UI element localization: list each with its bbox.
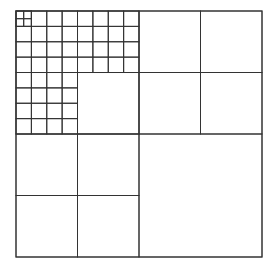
fine-cell: [62, 26, 77, 41]
fine-cell: [78, 57, 93, 72]
fine-cell: [16, 57, 31, 72]
fine-cell: [47, 42, 62, 57]
fine-cell: [78, 11, 93, 26]
corner-sub-cell: [16, 19, 24, 27]
corner-sub-cell: [24, 19, 32, 27]
fine-cell: [93, 26, 108, 41]
fine-cell: [93, 57, 108, 72]
fine-cell: [93, 11, 108, 26]
quad-cell: [78, 134, 140, 196]
fine-cell: [16, 88, 31, 103]
quad-cell: [201, 73, 263, 135]
quad-cell: [78, 73, 140, 135]
quad-cell: [139, 134, 262, 257]
fine-cell: [108, 42, 123, 57]
fine-cell: [78, 26, 93, 41]
fine-cell: [31, 42, 46, 57]
fine-cell: [31, 11, 46, 26]
fine-cell: [62, 103, 77, 118]
fine-cell: [16, 26, 31, 41]
fine-cell: [108, 26, 123, 41]
fine-cell: [47, 103, 62, 118]
fine-cell: [16, 103, 31, 118]
fine-cell: [16, 73, 31, 88]
fine-cell: [124, 11, 139, 26]
fine-cell: [16, 119, 31, 134]
fine-cell: [62, 42, 77, 57]
quad-cell: [201, 11, 263, 73]
corner-sub-cell: [24, 11, 32, 19]
fine-cell: [31, 103, 46, 118]
fine-cell: [47, 11, 62, 26]
fine-cell: [62, 57, 77, 72]
fine-cell: [124, 42, 139, 57]
fine-cell: [62, 11, 77, 26]
quad-cell: [16, 134, 78, 196]
fine-cell: [124, 26, 139, 41]
corner-sub-cell: [16, 11, 24, 19]
fine-cell: [31, 88, 46, 103]
fine-cell: [47, 73, 62, 88]
fine-cell: [62, 73, 77, 88]
fine-cell: [47, 57, 62, 72]
quad-cell: [78, 196, 140, 258]
fine-cell: [31, 26, 46, 41]
fine-cell: [62, 88, 77, 103]
fine-cell: [62, 119, 77, 134]
fine-cell: [47, 26, 62, 41]
fine-cell: [108, 11, 123, 26]
fine-cell: [78, 42, 93, 57]
quadtree-diagram: [0, 0, 276, 277]
fine-cell: [93, 42, 108, 57]
fine-cell: [108, 57, 123, 72]
quad-cell: [139, 11, 201, 73]
quad-cell: [16, 196, 78, 258]
fine-cell: [47, 119, 62, 134]
fine-cell: [31, 119, 46, 134]
fine-cell: [31, 73, 46, 88]
fine-cell: [16, 42, 31, 57]
quad-cell: [139, 73, 201, 135]
fine-cell: [47, 88, 62, 103]
fine-cell: [124, 57, 139, 72]
fine-cell: [31, 57, 46, 72]
